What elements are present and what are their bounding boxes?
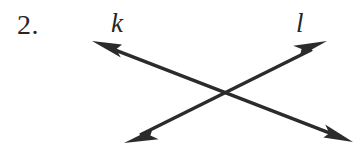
line-label-l: l <box>296 10 304 37</box>
line-l-segment <box>140 49 312 134</box>
line-k-segment <box>107 47 339 137</box>
line-k <box>92 41 353 142</box>
arrowhead-l-upper-right <box>293 41 327 56</box>
arrowhead-l-lower-left <box>124 129 159 143</box>
line-l <box>124 41 327 143</box>
problem-number: 2. <box>17 11 39 39</box>
line-label-k: k <box>111 10 123 37</box>
figure-container: 2. k l <box>0 0 357 146</box>
